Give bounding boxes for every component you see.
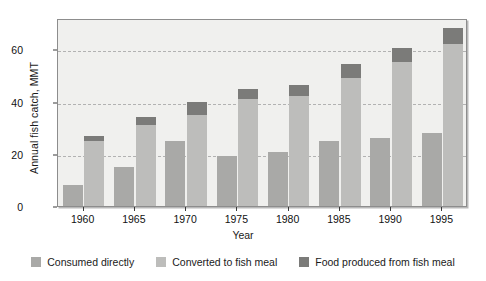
bar-consumed-directly xyxy=(422,133,442,206)
bar-fishmeal-stack xyxy=(289,85,309,206)
segment-food-produced-from-fish-meal xyxy=(392,48,412,62)
segment-converted-to-fish-meal xyxy=(289,96,309,206)
bar-consumed-directly xyxy=(114,167,134,206)
legend-swatch-icon xyxy=(299,257,309,267)
segment-converted-to-fish-meal xyxy=(341,78,361,206)
segment-food-produced-from-fish-meal xyxy=(84,136,104,141)
bar-consumed-directly xyxy=(268,152,288,206)
bar-fishmeal-stack xyxy=(187,102,207,206)
segment-converted-to-fish-meal xyxy=(136,125,156,206)
segment-food-produced-from-fish-meal xyxy=(187,102,207,115)
segment-converted-to-fish-meal xyxy=(392,62,412,206)
fish-catch-bar-chart: Annual fish catch, MMT 0204060 196019651… xyxy=(0,0,486,281)
bar-consumed-directly xyxy=(319,141,339,206)
segment-food-produced-from-fish-meal xyxy=(289,85,309,97)
x-tick-mark xyxy=(185,207,186,211)
y-tick-label: 40 xyxy=(0,97,23,109)
y-tick-label: 0 xyxy=(0,201,23,213)
x-tick-mark xyxy=(339,207,340,211)
bar-consumed-directly xyxy=(370,138,390,206)
x-tick-mark xyxy=(83,207,84,211)
x-tick-mark xyxy=(288,207,289,211)
x-tick-mark xyxy=(441,207,442,211)
y-axis-title: Annual fish catch, MMT xyxy=(28,23,40,213)
segment-food-produced-from-fish-meal xyxy=(238,89,258,99)
segment-converted-to-fish-meal xyxy=(84,141,104,206)
segment-converted-to-fish-meal xyxy=(443,44,463,206)
segment-converted-to-fish-meal xyxy=(187,115,207,206)
bar-consumed-directly xyxy=(63,185,83,206)
bar-fishmeal-stack xyxy=(341,64,361,206)
bar-consumed-directly xyxy=(165,141,185,206)
legend-label: Converted to fish meal xyxy=(172,256,277,268)
x-tick-mark xyxy=(134,207,135,211)
bar-fishmeal-stack xyxy=(392,48,412,206)
segment-converted-to-fish-meal xyxy=(238,99,258,206)
segment-food-produced-from-fish-meal xyxy=(341,64,361,78)
bar-fishmeal-stack xyxy=(136,117,156,206)
legend-item: Consumed directly xyxy=(31,256,134,268)
chart-legend: Consumed directlyConverted to fish mealF… xyxy=(0,256,486,268)
x-axis-title: Year xyxy=(0,229,486,241)
legend-item: Food produced from fish meal xyxy=(299,256,454,268)
legend-label: Consumed directly xyxy=(47,256,134,268)
legend-swatch-icon xyxy=(156,257,166,267)
x-tick-mark xyxy=(236,207,237,211)
bar-fishmeal-stack xyxy=(443,28,463,206)
legend-swatch-icon xyxy=(31,257,41,267)
legend-item: Converted to fish meal xyxy=(156,256,277,268)
y-tick-label: 60 xyxy=(0,44,23,56)
y-tick-label: 20 xyxy=(0,149,23,161)
bar-fishmeal-stack xyxy=(84,136,104,207)
x-tick-label: 1995 xyxy=(411,213,471,225)
plot-area xyxy=(57,19,467,207)
segment-food-produced-from-fish-meal xyxy=(443,28,463,44)
segment-food-produced-from-fish-meal xyxy=(136,117,156,125)
legend-label: Food produced from fish meal xyxy=(315,256,454,268)
bar-consumed-directly xyxy=(217,156,237,206)
bar-fishmeal-stack xyxy=(238,89,258,207)
x-tick-mark xyxy=(390,207,391,211)
